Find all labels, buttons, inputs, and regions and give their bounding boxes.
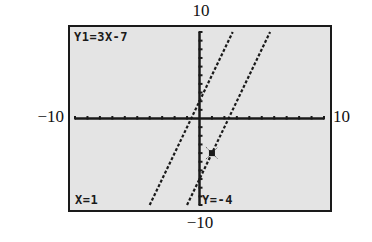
xmin-label: −10 — [20, 108, 64, 125]
x-readout: X=1 — [75, 193, 98, 207]
equation-label: Y1=3X-7 — [74, 30, 128, 44]
calculator-screen: Y1=3X-7 X=1 Y=-4 — [68, 25, 332, 212]
ymin-label: −10 — [180, 214, 220, 231]
y-readout: Y=-4 — [202, 193, 233, 207]
trace-cursor-point — [209, 150, 215, 156]
ymax-label: 10 — [186, 2, 216, 19]
graph-plot — [70, 27, 330, 210]
xmax-label: 10 — [333, 108, 363, 125]
